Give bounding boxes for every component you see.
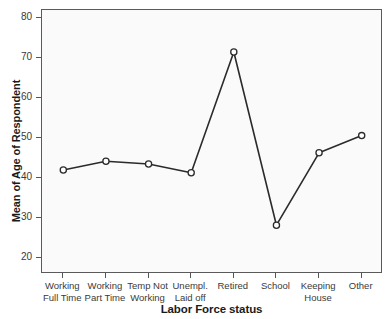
data-point-marker <box>60 167 66 173</box>
x-tick-mark <box>233 273 234 278</box>
y-tick-label: 20 <box>6 252 32 262</box>
y-tick-label: 80 <box>6 12 32 22</box>
x-tick-mark <box>361 273 362 278</box>
x-tick-label: Other <box>330 280 390 292</box>
x-axis-title: Labor Force status <box>41 303 382 315</box>
x-tick-mark <box>190 273 191 278</box>
data-point-marker <box>103 158 109 164</box>
data-point-marker <box>188 170 194 176</box>
data-point-marker <box>316 150 322 156</box>
y-tick-label: 40 <box>6 172 32 182</box>
x-tick-mark <box>62 273 63 278</box>
y-tick-label: 50 <box>6 132 32 142</box>
x-tick-mark <box>275 273 276 278</box>
series-plot <box>42 10 383 274</box>
y-tick-label: 70 <box>6 52 32 62</box>
y-tick-label: 60 <box>6 92 32 102</box>
x-tick-label-line: House <box>287 292 349 304</box>
data-point-marker <box>231 49 237 55</box>
line-chart: Mean of Age of Respondent 20304050607080… <box>0 0 390 319</box>
plot-area <box>41 9 382 273</box>
x-tick-label-line: Other <box>330 280 390 292</box>
data-point-marker <box>145 161 151 167</box>
data-point-marker <box>359 133 365 139</box>
y-axis-tick-labels: 20304050607080 <box>6 0 32 319</box>
x-tick-label-line: Laid off <box>159 292 221 304</box>
data-point-marker <box>273 222 279 228</box>
x-tick-mark <box>318 273 319 278</box>
x-tick-mark <box>148 273 149 278</box>
x-tick-mark <box>105 273 106 278</box>
x-axis-tick-marks <box>41 273 382 279</box>
y-tick-label: 30 <box>6 212 32 222</box>
series-line <box>63 52 361 225</box>
